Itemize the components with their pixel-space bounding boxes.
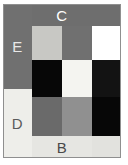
cell-r2c1 <box>32 60 62 97</box>
cell-e-label: E <box>12 39 23 54</box>
cell-r1c3 <box>92 26 121 60</box>
cell-r3c3 <box>92 97 121 136</box>
cell-r1c1 <box>32 26 62 60</box>
cell-r0c3 <box>92 4 121 26</box>
cell-r3c2 <box>62 97 92 136</box>
cell-r2c2 <box>62 60 92 97</box>
cell-r2c3 <box>92 60 121 97</box>
cell-r1c2 <box>62 26 92 60</box>
cell-c-label: C <box>56 8 67 23</box>
cell-d: D <box>3 89 32 158</box>
color-block-grid-figure: EDCB <box>0 0 128 165</box>
cell-e: E <box>3 4 32 89</box>
cell-r3c1 <box>32 97 62 136</box>
cell-d-label: D <box>12 116 23 131</box>
cell-b-label: B <box>57 140 68 155</box>
cell-r4c3 <box>92 136 121 158</box>
cell-b: B <box>32 136 92 158</box>
cell-c: C <box>32 4 92 26</box>
